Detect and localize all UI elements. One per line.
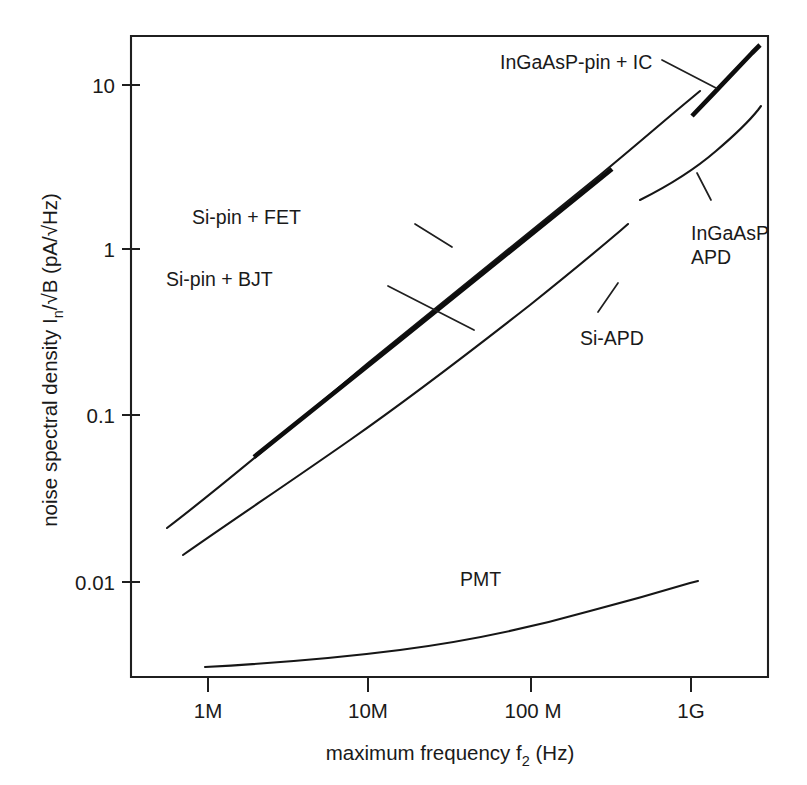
y-axis-title-part1: noise spectral density I bbox=[38, 318, 61, 527]
y-axis-title-text: noise spectral density In/√B (pA/√Hz) bbox=[38, 193, 66, 527]
annotation-leaders bbox=[388, 60, 716, 330]
leader-ingaasp-pin-ic bbox=[662, 60, 716, 88]
curve-si-pin-bjt bbox=[254, 169, 612, 457]
y-axis-title-sub: n bbox=[50, 310, 66, 318]
y-tick-label-10: 10 bbox=[92, 74, 115, 97]
x-tick-label-1M: 1M bbox=[194, 699, 222, 722]
label-pmt: PMT bbox=[460, 568, 501, 590]
leader-si-apd bbox=[598, 283, 618, 312]
y-tick-label-0-01: 0.01 bbox=[75, 571, 115, 594]
noise-spectral-density-chart: 10 1 0.1 0.01 1M 10M 100 M 1G maximum fr… bbox=[0, 0, 807, 785]
axis-box bbox=[131, 36, 768, 677]
y-axis-title: noise spectral density In/√B (pA/√Hz) bbox=[38, 193, 66, 527]
y-tick-label-1: 1 bbox=[104, 238, 115, 261]
x-axis-title-units: (Hz) bbox=[530, 741, 574, 764]
curve-ingaasp-apd bbox=[640, 106, 761, 200]
label-ingaasp-pin-ic: InGaAsP-pin + IC bbox=[500, 51, 652, 73]
label-si-apd: Si-APD bbox=[580, 327, 644, 349]
x-axis-title-main: maximum frequency f bbox=[326, 741, 522, 764]
x-axis-title-sub: 2 bbox=[522, 753, 530, 769]
x-tick-label-1G: 1G bbox=[677, 699, 704, 722]
label-si-pin-fet: Si-pin + FET bbox=[192, 206, 301, 228]
x-axis-tick-labels: 1M 10M 100 M 1G bbox=[194, 699, 705, 722]
plot-frame bbox=[131, 36, 768, 677]
x-axis-title-text: maximum frequency f2 (Hz) bbox=[326, 741, 574, 769]
y-axis-tick-labels: 10 1 0.1 0.01 bbox=[75, 74, 115, 594]
label-si-pin-bjt: Si-pin + BJT bbox=[166, 268, 273, 290]
y-axis-title-part2: /√B (pA/√Hz) bbox=[38, 193, 61, 310]
annotation-labels: InGaAsP-pin + IC Si-pin + FET Si-pin + B… bbox=[166, 51, 769, 590]
x-tick-label-100M: 100 M bbox=[505, 699, 562, 722]
label-apd: APD bbox=[691, 246, 731, 268]
x-axis-ticks bbox=[208, 677, 691, 692]
x-tick-label-10M: 10M bbox=[348, 699, 388, 722]
leader-si-pin-fet bbox=[415, 224, 452, 247]
x-axis-title: maximum frequency f2 (Hz) bbox=[326, 741, 574, 769]
leader-ingaasp-apd bbox=[697, 173, 711, 200]
curve-pmt bbox=[205, 581, 698, 667]
y-tick-label-0-1: 0.1 bbox=[87, 404, 116, 427]
figure-root: 10 1 0.1 0.01 1M 10M 100 M 1G maximum fr… bbox=[0, 0, 807, 785]
label-ingaasp: InGaAsP bbox=[691, 222, 769, 244]
